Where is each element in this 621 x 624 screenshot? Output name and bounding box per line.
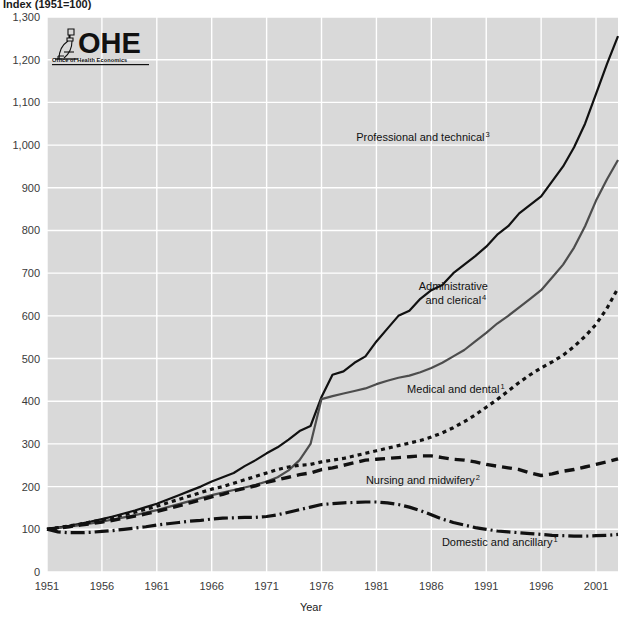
series-label: Medical and dental (407, 383, 499, 395)
logo-subtitle: Office of Health Economics (52, 57, 127, 63)
series-label-group: Domestic and ancillary1 (442, 535, 558, 548)
plot-area-background (47, 17, 618, 572)
series-label-group: Nursing and midwifery2 (366, 473, 480, 486)
y-axis-tick-label: 1,000 (12, 139, 40, 151)
y-axis-tick-label: 1,300 (12, 11, 40, 23)
y-axis-tick-label: 1,200 (12, 54, 40, 66)
y-axis-tick-label: 100 (22, 523, 40, 535)
x-axis-title: Year (300, 601, 323, 613)
y-axis-tick-label: 300 (22, 438, 40, 450)
x-axis-tick-label: 1976 (309, 580, 333, 592)
series-label: Nursing and midwifery (366, 474, 475, 486)
y-axis-tick-label: 600 (22, 310, 40, 322)
x-axis-tick-label: 2001 (584, 580, 608, 592)
series-label-group: Medical and dental1 (407, 382, 505, 395)
series-label: Domestic and ancillary (442, 536, 553, 548)
x-axis-tick-label: 1961 (145, 580, 169, 592)
x-axis-tick-label: 1981 (364, 580, 388, 592)
series-label: and clerical (425, 294, 481, 306)
series-label: Administrative (419, 280, 488, 292)
y-axis-tick-label: 400 (22, 395, 40, 407)
series-label: Professional and technical (356, 131, 484, 143)
x-axis-tick-label: 1996 (529, 580, 553, 592)
logo-underline (52, 64, 149, 65)
x-axis-tick-label: 1991 (474, 580, 498, 592)
plot-area (47, 17, 618, 572)
x-axis-tick-label: 1951 (35, 580, 59, 592)
series-label-footnote: 3 (486, 130, 490, 139)
x-axis-tick-label: 1986 (419, 580, 443, 592)
y-axis-tick-label: 200 (22, 481, 40, 493)
y-axis-tick-label: 700 (22, 267, 40, 279)
y-axis-tick-label: 800 (22, 224, 40, 236)
series-label-footnote: 2 (476, 473, 480, 482)
y-axis-tick-label: 900 (22, 182, 40, 194)
series-label-footnote: 1 (554, 535, 558, 544)
x-axis-tick-label: 1966 (199, 580, 223, 592)
y-axis-tick-label: 0 (34, 566, 40, 578)
series-label-footnote: 1 (500, 382, 504, 391)
y-axis-tick-label: 1,100 (12, 96, 40, 108)
chart-container: Index (1951=100) 01002003004005006007008… (0, 0, 621, 624)
y-axis-tick-label: 500 (22, 353, 40, 365)
x-axis-tick-label: 1971 (254, 580, 278, 592)
logo-wordmark: OHE (78, 27, 141, 59)
series-label-footnote: 4 (482, 293, 486, 302)
chart-title: Index (1951=100) (3, 0, 92, 10)
series-label-group: Professional and technical3 (356, 130, 490, 143)
x-axis-tick-label: 1956 (90, 580, 114, 592)
index-line-chart: Index (1951=100) 01002003004005006007008… (0, 0, 621, 624)
